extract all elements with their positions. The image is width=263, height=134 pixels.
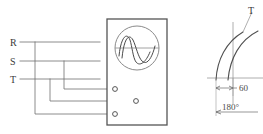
three-phase-lines [20,42,100,79]
terminal-2[interactable] [134,99,139,104]
technical-diagram: R S T [0,0,263,134]
wire-to-terminal-1 [64,61,112,89]
dimension-label-180: 180° [222,102,240,112]
wire-to-terminal-3 [35,42,112,114]
phase-label-t: T [10,74,16,85]
enclosure-outline [107,19,167,125]
terminal-1[interactable] [113,87,118,92]
dimension-label-60: 60 [239,83,249,93]
phase-label-t-right: T [248,5,254,16]
phase-label-s: S [10,56,16,67]
arc-curve-right [228,31,258,80]
terminal-3[interactable] [113,112,118,117]
phase-label-r: R [10,37,17,48]
figure-root: R S T [0,0,263,134]
panel-meter-enclosure [107,19,167,125]
phase-angle-diagram: T 60 180° [207,5,263,116]
